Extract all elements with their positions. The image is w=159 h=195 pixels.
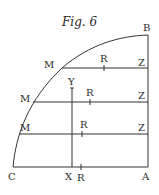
label-r-bottom: R: [77, 172, 85, 183]
label-x: X: [65, 171, 73, 182]
label-z3: Z: [138, 122, 145, 133]
label-r2: R: [86, 87, 94, 98]
curve-cb: [13, 35, 148, 167]
label-r3: R: [80, 119, 88, 130]
label-r1: R: [100, 53, 108, 64]
figure-title: Fig. 6: [61, 15, 97, 29]
label-a: A: [141, 171, 150, 182]
label-m1: M: [44, 59, 54, 70]
label-b: B: [143, 22, 150, 33]
label-m3: M: [20, 122, 30, 133]
label-z2: Z: [138, 90, 145, 101]
label-m2: M: [20, 93, 30, 104]
label-c: C: [8, 171, 16, 182]
figure-6-diagram: Fig. 6 B M R Z Y M R Z M R Z C X R A: [0, 0, 159, 195]
label-y: Y: [67, 76, 75, 87]
label-z1: Z: [138, 57, 145, 68]
